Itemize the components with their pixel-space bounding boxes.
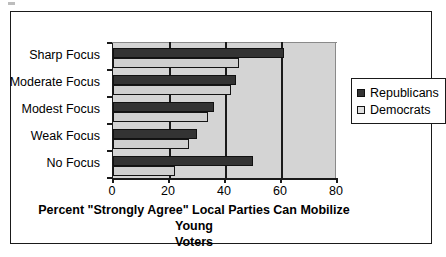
bar-republicans-modest-focus <box>113 102 214 112</box>
x-tick-40 <box>224 178 226 183</box>
legend-label-republicans: Republicans <box>370 86 439 100</box>
category-label-sharp-focus: Sharp Focus <box>0 48 100 62</box>
y-tick-3 <box>107 123 112 125</box>
chart-legend: Republicans Democrats <box>351 78 446 124</box>
plot-area <box>112 42 336 178</box>
y-tick-5 <box>107 177 112 179</box>
bar-republicans-weak-focus <box>113 129 197 139</box>
legend-item-democrats: Democrats <box>357 101 439 118</box>
gridline-60 <box>281 42 283 178</box>
x-axis-title: Percent "Strongly Agree" Local Parties C… <box>29 202 359 250</box>
category-label-modest-focus: Modest Focus <box>0 102 100 116</box>
y-tick-1 <box>107 69 112 71</box>
x-tick-label-20: 20 <box>148 184 188 198</box>
plot-right-edge <box>335 42 336 178</box>
y-tick-4 <box>107 150 112 152</box>
category-label-no-focus: No Focus <box>0 156 100 170</box>
bar-republicans-sharp-focus <box>113 48 284 58</box>
x-tick-label-60: 60 <box>260 184 300 198</box>
x-tick-20 <box>168 178 170 183</box>
bar-republicans-no-focus <box>113 156 253 166</box>
category-label-moderate-focus: Moderate Focus <box>0 75 100 89</box>
x-tick-80 <box>336 178 338 183</box>
bar-republicans-moderate-focus <box>113 75 236 85</box>
legend-swatch-democrats-icon <box>357 106 365 114</box>
x-axis-title-line-2: Voters <box>29 234 359 250</box>
scan-artifact <box>8 2 15 5</box>
y-tick-0 <box>107 42 112 44</box>
x-axis-title-line-1: Percent "Strongly Agree" Local Parties C… <box>29 202 359 234</box>
legend-item-republicans: Republicans <box>357 84 439 101</box>
legend-swatch-republicans-icon <box>357 89 365 97</box>
y-tick-2 <box>107 96 112 98</box>
bar-democrats-modest-focus <box>113 112 208 122</box>
x-tick-label-0: 0 <box>92 184 132 198</box>
bar-democrats-no-focus <box>113 166 175 176</box>
bar-democrats-moderate-focus <box>113 85 231 95</box>
legend-label-democrats: Democrats <box>370 103 430 117</box>
x-tick-label-80: 80 <box>316 184 356 198</box>
x-tick-0 <box>112 178 114 183</box>
category-label-weak-focus: Weak Focus <box>0 129 100 143</box>
bar-democrats-weak-focus <box>113 139 189 149</box>
x-tick-label-40: 40 <box>204 184 244 198</box>
chart-frame: 0 20 40 60 80 Sharp Focus Moderate Focus… <box>10 11 432 244</box>
x-tick-60 <box>280 178 282 183</box>
bar-democrats-sharp-focus <box>113 58 239 68</box>
